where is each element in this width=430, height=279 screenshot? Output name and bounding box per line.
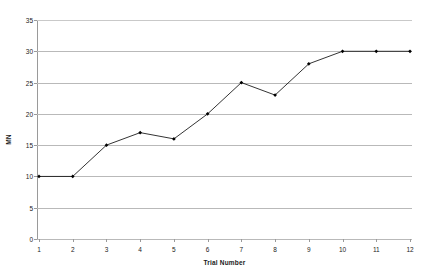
y-tick-label: 15 <box>26 142 33 149</box>
plot-area: 05101520253035 123456789101112 <box>37 20 412 240</box>
x-tick-label: 1 <box>37 246 41 253</box>
y-axis-title: MN <box>0 0 16 279</box>
x-tick-label: 9 <box>307 246 311 253</box>
x-tick-label: 4 <box>138 246 142 253</box>
y-tick-label: 35 <box>26 17 33 24</box>
y-tick-label: 20 <box>26 110 33 117</box>
data-point-marker <box>37 175 41 179</box>
y-tick-label: 5 <box>29 204 33 211</box>
x-tick-label: 2 <box>71 246 75 253</box>
data-point-marker <box>408 49 412 53</box>
x-tick-label: 5 <box>172 246 176 253</box>
x-tick-label: 3 <box>105 246 109 253</box>
x-tick-label: 12 <box>406 246 413 253</box>
y-tick-label: 25 <box>26 79 33 86</box>
data-series-mn <box>37 20 412 240</box>
x-tick-label: 8 <box>273 246 277 253</box>
line-chart: MN 05101520253035 123456789101112 Trial … <box>0 0 430 279</box>
x-tick-label: 7 <box>240 246 244 253</box>
data-point-marker <box>374 49 378 53</box>
series-line <box>39 51 410 176</box>
data-point-marker <box>341 49 345 53</box>
x-tick-label: 10 <box>339 246 346 253</box>
x-axis-title: Trial Number <box>37 259 412 266</box>
data-point-marker <box>138 131 142 135</box>
y-tick-label: 0 <box>29 236 33 243</box>
y-tick-label: 10 <box>26 173 33 180</box>
x-tick-label: 11 <box>373 246 380 253</box>
y-tick-label: 30 <box>26 48 33 55</box>
x-tick-label: 6 <box>206 246 210 253</box>
